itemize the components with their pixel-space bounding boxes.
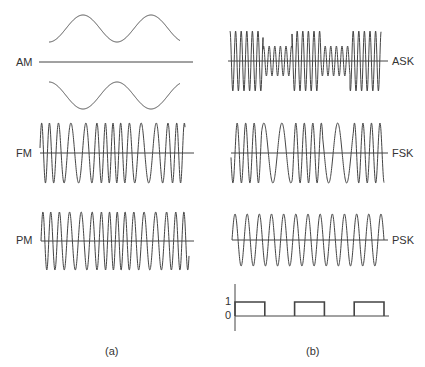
digital-pulse (354, 302, 384, 316)
caption-a: (a) (105, 345, 118, 357)
digital-pulse (295, 302, 325, 316)
fsk-waveform (231, 123, 388, 183)
am-waveform (39, 15, 193, 109)
psk-waveform (232, 214, 388, 266)
ask-waveform (228, 31, 388, 91)
fm-label: FM (16, 147, 32, 159)
psk-label: PSK (392, 234, 414, 246)
am-lower-envelope (49, 82, 180, 109)
level-0-label: 0 (225, 309, 231, 321)
fm-waveform (40, 123, 194, 183)
caption-b: (b) (306, 345, 319, 357)
digital-pulse (235, 302, 265, 316)
pm-label: PM (16, 234, 33, 246)
modulation-diagram (0, 0, 425, 367)
pm-waveform (41, 212, 194, 270)
fsk-label: FSK (392, 147, 413, 159)
am-upper-envelope (49, 15, 180, 42)
digital-bit-stream (235, 284, 389, 331)
ask-label: ASK (392, 55, 414, 67)
level-1-label: 1 (225, 295, 231, 307)
am-label: AM (16, 56, 33, 68)
